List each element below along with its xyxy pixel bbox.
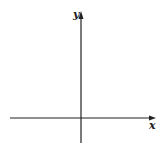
- coordinate-axes-diagram: y x: [0, 0, 166, 153]
- y-axis-label: y: [73, 9, 79, 20]
- axes-svg: [0, 0, 166, 153]
- x-axis-label: x: [149, 120, 156, 131]
